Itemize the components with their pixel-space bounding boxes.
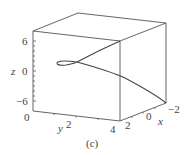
space-curve bbox=[57, 41, 166, 103]
z-tick-label-neg6: −6 bbox=[16, 95, 28, 107]
x-tick-label-0: 0 bbox=[146, 110, 152, 122]
x-tick-label-neg2: −2 bbox=[168, 103, 180, 115]
z-axis-label: z bbox=[10, 65, 16, 77]
bounding-box bbox=[33, 13, 166, 121]
figure-3d-curve: 6 z 0 −6 0 y 2 4 2 0 x −2 (c) bbox=[0, 0, 189, 155]
y-tick-label-0: 0 bbox=[24, 111, 30, 123]
z-tick-label-0: 0 bbox=[22, 65, 28, 77]
x-axis-label: x bbox=[157, 115, 163, 127]
y-tick-label-2: 2 bbox=[66, 118, 72, 130]
plot-canvas: 6 z 0 −6 0 y 2 4 2 0 x −2 (c) bbox=[0, 0, 189, 155]
figure-caption: (c) bbox=[86, 137, 99, 150]
y-axis-line bbox=[33, 111, 120, 121]
y-axis-label: y bbox=[57, 122, 63, 134]
x-tick-label-2: 2 bbox=[125, 119, 131, 131]
y-tick-label-4: 4 bbox=[110, 123, 116, 135]
z-tick-label-6: 6 bbox=[22, 35, 28, 47]
